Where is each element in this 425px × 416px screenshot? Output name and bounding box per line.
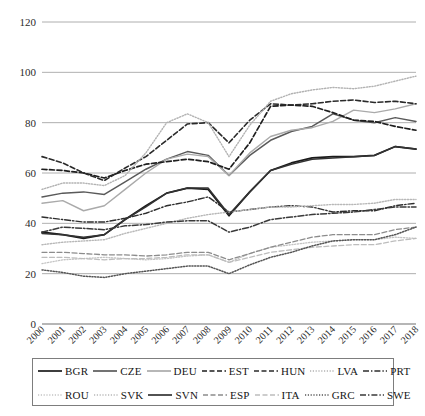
x-tick-label-2018: 2018 [398, 324, 420, 346]
series-line-prt [42, 197, 416, 222]
x-tick-group-2015: 2015 [336, 324, 358, 346]
x-tick-group-2010: 2010 [232, 324, 254, 346]
x-tick-label-2008: 2008 [191, 324, 213, 346]
legend-line-sample-bgr [37, 366, 63, 376]
legend-item-svk[interactable]: SVK [93, 389, 144, 401]
x-tick-group-2002: 2002 [66, 324, 88, 346]
x-tick-group-2008: 2008 [191, 324, 213, 346]
x-tick-group-2009: 2009 [211, 324, 233, 346]
x-tick-group-2007: 2007 [170, 324, 192, 346]
legend-item-lva[interactable]: LVA [309, 365, 358, 377]
x-tick-label-2004: 2004 [108, 324, 130, 346]
x-tick-label-2009: 2009 [211, 324, 233, 346]
x-tick-group-2018: 2018 [398, 324, 420, 346]
x-tick-label-2016: 2016 [357, 324, 379, 346]
x-tick-group-2014: 2014 [315, 324, 337, 346]
chart-legend: BGRCZEDEUESTHUNLVAPRT ROUSVKSVNESPITAGRC… [32, 358, 394, 406]
legend-row-1: BGRCZEDEUESTHUNLVAPRT [33, 359, 393, 383]
legend-item-rou[interactable]: ROU [37, 389, 89, 401]
legend-line-sample-lva [309, 366, 335, 376]
x-tick-label-2002: 2002 [66, 324, 88, 346]
x-tick-group-2000: 2000 [24, 324, 46, 346]
legend-item-ita[interactable]: ITA [254, 389, 300, 401]
legend-line-sample-esp [202, 390, 228, 400]
legend-item-bgr[interactable]: BGR [37, 365, 88, 377]
series-line-swe [42, 207, 416, 232]
legend-label-hun: HUN [281, 365, 305, 377]
legend-label-bgr: BGR [65, 365, 88, 377]
x-tick-label-2015: 2015 [336, 324, 358, 346]
x-tick-group-2012: 2012 [274, 324, 296, 346]
legend-item-svn[interactable]: SVN [147, 389, 198, 401]
x-tick-group-2017: 2017 [378, 324, 400, 346]
legend-label-lva: LVA [337, 365, 358, 377]
legend-label-svn: SVN [175, 389, 198, 401]
y-tick-label-120: 120 [20, 16, 37, 28]
x-tick-label-2013: 2013 [295, 324, 317, 346]
legend-item-swe[interactable]: SWE [359, 389, 411, 401]
legend-item-esp[interactable]: ESP [202, 389, 250, 401]
legend-line-sample-svk [93, 390, 119, 400]
x-tick-label-2006: 2006 [149, 324, 171, 346]
legend-line-sample-cze [92, 366, 118, 376]
legend-line-sample-ita [254, 390, 280, 400]
legend-label-esp: ESP [230, 389, 250, 401]
legend-label-est: EST [229, 365, 249, 377]
legend-row-2: ROUSVKSVNESPITAGRCSWE [33, 383, 393, 407]
y-tick-label-40: 40 [25, 217, 37, 229]
series-line-est [42, 105, 416, 178]
x-tick-group-2016: 2016 [357, 324, 379, 346]
x-tick-group-2003: 2003 [87, 324, 109, 346]
legend-line-sample-swe [359, 390, 385, 400]
x-tick-label-2003: 2003 [87, 324, 109, 346]
legend-label-swe: SWE [387, 389, 411, 401]
x-tick-group-2005: 2005 [128, 324, 150, 346]
line-chart: 0204060801001202000200120022003200420052… [0, 0, 425, 416]
x-tick-group-2013: 2013 [295, 324, 317, 346]
legend-item-deu[interactable]: DEU [146, 365, 197, 377]
legend-item-hun[interactable]: HUN [253, 365, 305, 377]
legend-line-sample-grc [304, 390, 330, 400]
legend-line-sample-hun [253, 366, 279, 376]
legend-line-sample-deu [146, 366, 172, 376]
chart-plot-area: 0204060801001202000200120022003200420052… [0, 0, 425, 416]
x-tick-label-2005: 2005 [128, 324, 150, 346]
legend-line-sample-svn [147, 390, 173, 400]
legend-item-est[interactable]: EST [201, 365, 249, 377]
x-tick-label-2000: 2000 [24, 324, 46, 346]
legend-label-prt: PRT [390, 365, 410, 377]
series-line-lva [42, 76, 416, 189]
x-tick-label-2014: 2014 [315, 324, 337, 346]
legend-label-rou: ROU [65, 389, 89, 401]
x-tick-label-2001: 2001 [45, 324, 67, 346]
x-tick-group-2004: 2004 [108, 324, 130, 346]
y-tick-label-60: 60 [25, 167, 37, 179]
y-tick-label-100: 100 [20, 66, 37, 78]
legend-item-cze[interactable]: CZE [92, 365, 141, 377]
x-tick-group-2001: 2001 [45, 324, 67, 346]
series-line-ita [42, 238, 416, 262]
series-line-bgr [42, 147, 416, 239]
x-tick-label-2007: 2007 [170, 324, 192, 346]
x-tick-label-2017: 2017 [378, 324, 400, 346]
legend-label-ita: ITA [282, 389, 300, 401]
y-tick-label-80: 80 [25, 117, 37, 129]
legend-label-deu: DEU [174, 365, 197, 377]
legend-line-sample-prt [362, 366, 388, 376]
legend-item-prt[interactable]: PRT [362, 365, 410, 377]
legend-line-sample-rou [37, 390, 63, 400]
legend-label-svk: SVK [121, 389, 144, 401]
legend-line-sample-est [201, 366, 227, 376]
legend-item-grc[interactable]: GRC [304, 389, 355, 401]
legend-label-grc: GRC [332, 389, 355, 401]
x-tick-group-2011: 2011 [253, 324, 275, 346]
x-tick-label-2010: 2010 [232, 324, 254, 346]
legend-label-cze: CZE [120, 365, 141, 377]
y-tick-label-20: 20 [25, 268, 37, 280]
x-tick-label-2011: 2011 [253, 324, 275, 346]
x-tick-label-2012: 2012 [274, 324, 296, 346]
x-tick-group-2006: 2006 [149, 324, 171, 346]
